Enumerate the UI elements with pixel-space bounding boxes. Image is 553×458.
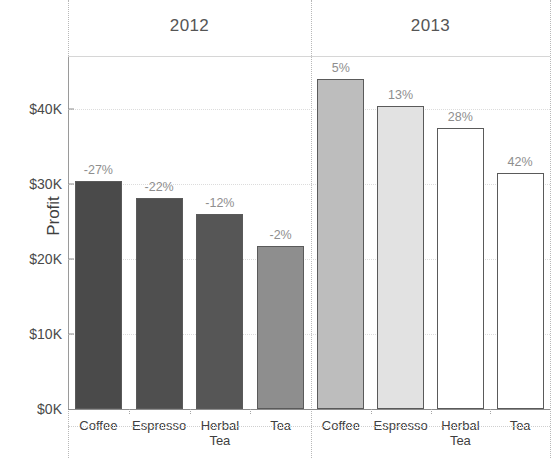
bar-value-label: -2%: [270, 228, 292, 242]
bar[interactable]: [317, 79, 364, 409]
x-tick-mark: [190, 409, 191, 414]
bar-value-label: -12%: [205, 196, 234, 210]
bar-value-label: -27%: [84, 163, 113, 177]
x-tick-mark: [371, 409, 372, 414]
panel-header-band: 2012 2013: [0, 0, 553, 56]
footer-rule: [68, 426, 550, 427]
bar-value-label: 28%: [448, 110, 473, 124]
x-axis-labels: CoffeeEspressoHerbal TeaTeaCoffeeEspress…: [0, 412, 553, 458]
x-tick-mark: [431, 409, 432, 414]
bar[interactable]: [377, 106, 424, 409]
y-tick-label: $20K: [2, 251, 62, 267]
x-tick-mark: [490, 409, 491, 414]
panel-separator-right: [550, 0, 551, 458]
x-tick-mark: [250, 409, 251, 414]
x-category-label: Herbal Tea: [190, 418, 251, 448]
y-tick-label: $10K: [2, 326, 62, 342]
bar[interactable]: [497, 173, 544, 409]
panel-title-2012: 2012: [68, 16, 311, 36]
bar-value-label: 42%: [508, 155, 533, 169]
bar[interactable]: [196, 214, 243, 409]
bar[interactable]: [75, 181, 122, 409]
x-axis-baseline: [68, 409, 550, 410]
panel-title-2013: 2013: [311, 16, 550, 36]
y-tick-label: $40K: [2, 101, 62, 117]
bar[interactable]: [136, 198, 183, 409]
bar-value-label: 13%: [388, 88, 413, 102]
bar[interactable]: [257, 246, 304, 409]
bars-layer: [68, 57, 550, 409]
bar[interactable]: [437, 128, 484, 409]
x-category-label: Herbal Tea: [431, 418, 491, 448]
bar-value-label: -22%: [145, 180, 174, 194]
y-tick-label: $30K: [2, 176, 62, 192]
x-tick-mark: [129, 409, 130, 414]
bar-chart: 2012 2013 Profit $0K$10K$20K$30K$40K Cof…: [0, 0, 553, 458]
bar-value-label: 5%: [332, 61, 350, 75]
